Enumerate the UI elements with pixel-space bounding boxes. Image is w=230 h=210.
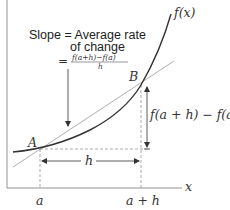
vertical-change-label: f(a + h) − f(a) [149,107,230,122]
point-a-label: A [27,135,37,150]
slope-title-line2: of change [70,40,125,54]
point-b-label: B [128,69,138,84]
slope-fraction-numerator: f(a+h)−f(a) [71,53,116,62]
horizontal-change-label: h [85,153,93,168]
tick-a-plus-h-label: a + h [126,193,160,208]
curve-label: f(x) [173,5,196,20]
slope-fraction-denominator: h [98,62,103,71]
x-axis-label: x [185,179,192,194]
average-rate-of-change-diagram: x a a + h f(x) A B h f(a + h) − f(a) Slo… [0,0,230,210]
slope-fraction-equals: = [58,54,68,68]
tick-a-label: a [36,193,43,208]
